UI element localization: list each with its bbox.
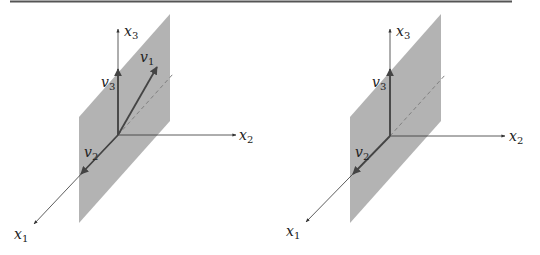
v3-label: v3 [372,74,386,92]
x3-label: x3 [396,23,410,41]
right-panel: x3 x2 x1 v3 v2 [286,14,523,241]
x2-label: x2 [239,127,253,145]
plane [350,14,441,223]
figure-canvas: x3 x2 x1 v1 v3 v2 x3 x2 x1 v3 v2 [0,0,540,255]
left-panel: x3 x2 x1 v1 v3 v2 [14,14,253,244]
v3-label: v3 [101,74,115,92]
x2-label: x2 [509,128,523,146]
x1-label: x1 [286,223,300,241]
plane [79,14,170,223]
x3-label: x3 [124,23,138,41]
x1-label: x1 [14,226,28,244]
